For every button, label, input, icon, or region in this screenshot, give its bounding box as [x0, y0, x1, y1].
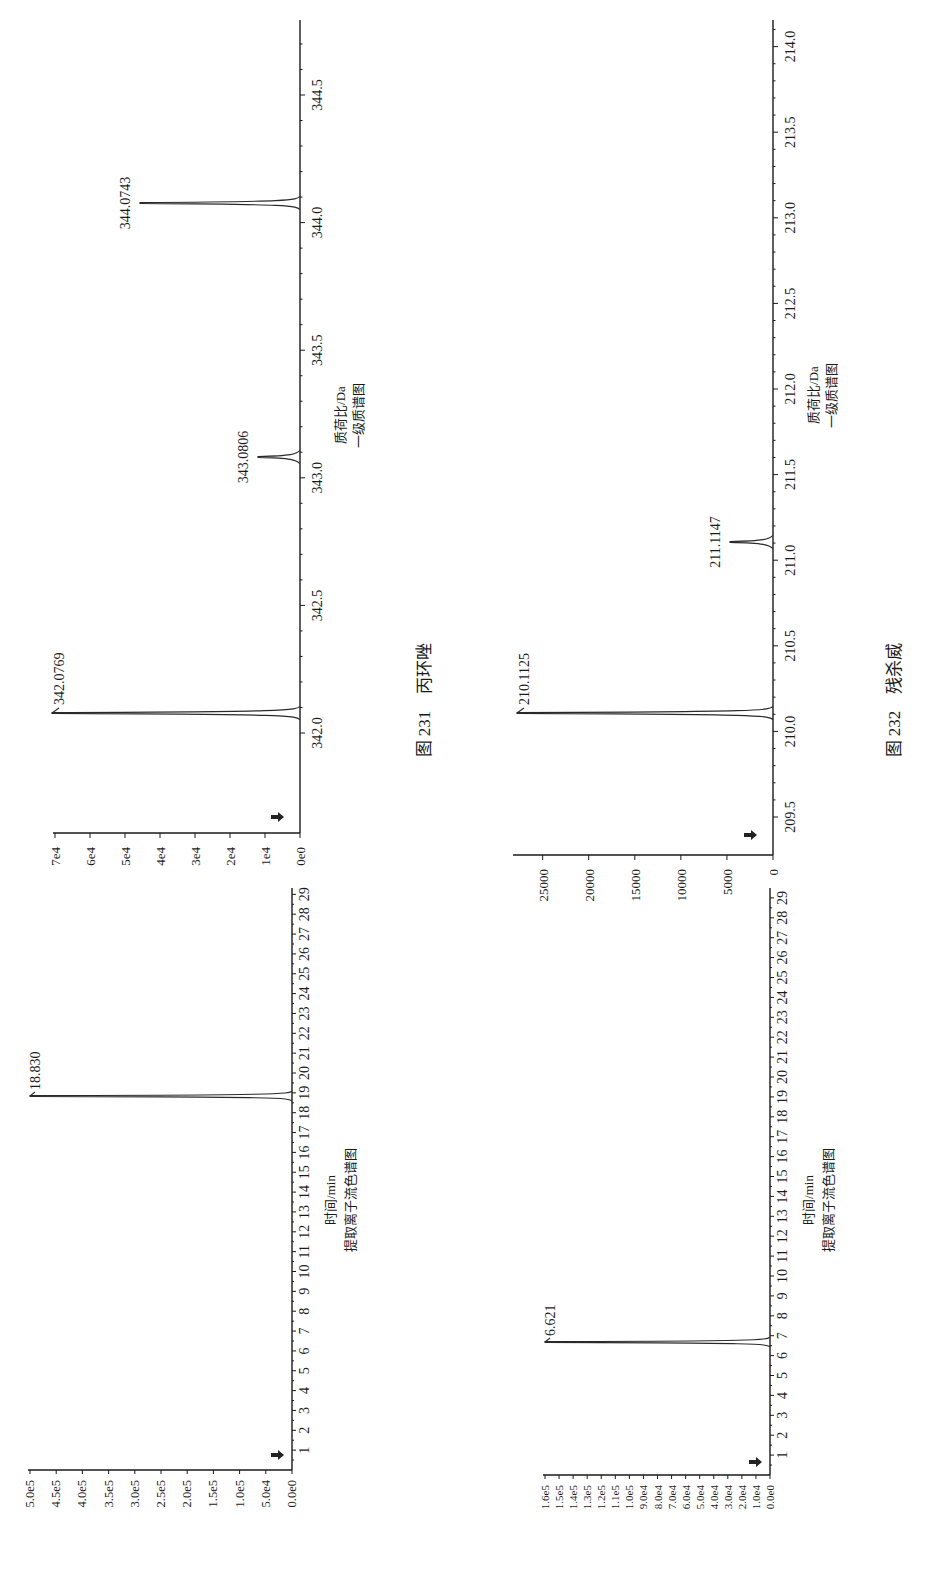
mz-tick-label: 210.5 [783, 630, 798, 662]
time-tick-label: 1 [297, 1447, 312, 1454]
time-tick-label: 5 [297, 1367, 312, 1374]
time-tick-label: 21 [297, 1046, 312, 1060]
time-tick-label: 20 [297, 1066, 312, 1080]
xic-intensity-tick-label: 2.5e5 [154, 1480, 168, 1507]
xic-intensity-tick-label: 5.0e4 [694, 1485, 706, 1510]
time-tick-label: 24 [775, 990, 790, 1004]
intensity-tick-label: 0 [766, 869, 781, 876]
xic-intensity-tick-label: 2.0e5 [180, 1480, 194, 1507]
peak-label: 210.1125 [517, 653, 532, 705]
xic-intensity-tick-label: 4.0e4 [708, 1485, 720, 1510]
time-tick-label: 6 [775, 1352, 790, 1359]
xic-intensity-tick-label: 1.0e5 [623, 1485, 635, 1510]
time-tick-label: 10 [297, 1265, 312, 1279]
time-tick-label: 27 [775, 931, 790, 945]
intensity-tick-label: 7e4 [48, 847, 63, 866]
xic-chart: 1234567891011121314151617181920212223242… [23, 887, 358, 1507]
intensity-tick-label: 5000 [720, 869, 735, 895]
mz-tick-label: 342.0 [310, 717, 325, 749]
time-tick-label: 7 [297, 1328, 312, 1335]
peak-label: 342.0769 [52, 653, 67, 706]
time-tick-label: 26 [297, 947, 312, 961]
ms-title: 一级质谱图 [351, 383, 366, 448]
time-tick-label: 18 [297, 1106, 312, 1120]
threshold-arrow-icon [749, 1457, 762, 1467]
time-tick-label: 1 [775, 1452, 790, 1459]
time-tick-label: 4 [297, 1387, 312, 1394]
xic-intensity-tick-label: 1.0e5 [233, 1480, 247, 1507]
figure-232: 209.5210.0210.5211.0211.5212.0212.5213.0… [513, 20, 904, 1509]
xic-xlabel: 时间/min [801, 1175, 816, 1225]
time-tick-label: 12 [297, 1225, 312, 1239]
time-tick-label: 9 [775, 1292, 790, 1299]
time-tick-label: 13 [297, 1205, 312, 1219]
xic-intensity-tick-label: 1.0e4 [750, 1485, 762, 1510]
mz-tick-label: 343.0 [310, 462, 325, 494]
xic-intensity-tick-label: 5.0e5 [23, 1480, 37, 1507]
intensity-tick-label: 15000 [628, 869, 643, 902]
ms-chart: 209.5210.0210.5211.0211.5212.0212.5213.0… [513, 20, 839, 902]
time-tick-label: 8 [297, 1308, 312, 1315]
xic-intensity-tick-label: 6.0e4 [680, 1485, 692, 1510]
peak-trace [30, 1091, 292, 1101]
time-tick-label: 27 [297, 927, 312, 941]
xic-peak-label: 18.830 [28, 1052, 43, 1091]
xic-intensity-tick-label: 1.3e5 [581, 1485, 593, 1510]
time-tick-label: 10 [775, 1269, 790, 1283]
time-tick-label: 22 [297, 1026, 312, 1040]
intensity-tick-label: 1e4 [258, 847, 273, 866]
xic-title: 提取离子流色谱图 [343, 1148, 358, 1252]
figure-caption: 图 231 丙环唑 [415, 643, 434, 758]
time-tick-label: 3 [297, 1407, 312, 1414]
mz-tick-label: 343.5 [310, 334, 325, 366]
peak-trace [258, 450, 300, 463]
xic-intensity-tick-label: 7.0e4 [666, 1485, 678, 1510]
xic-intensity-tick-label: 2.0e4 [736, 1485, 748, 1510]
xic-intensity-tick-label: 1.6e5 [539, 1485, 551, 1510]
time-tick-label: 8 [775, 1312, 790, 1319]
mz-tick-label: 344.0 [310, 207, 325, 239]
time-tick-label: 4 [775, 1392, 790, 1399]
mz-tick-label: 342.5 [310, 590, 325, 622]
xic-intensity-tick-label: 5.0e4 [259, 1479, 273, 1507]
time-tick-label: 17 [775, 1130, 790, 1144]
xic-intensity-tick-label: 4.5e5 [49, 1480, 63, 1507]
peak-trace [517, 706, 773, 719]
time-tick-label: 9 [297, 1288, 312, 1295]
time-tick-label: 7 [775, 1332, 790, 1339]
time-tick-label: 26 [775, 951, 790, 965]
mz-tick-label: 210.0 [783, 716, 798, 748]
mz-tick-label: 344.5 [310, 79, 325, 111]
ms-xlabel: 质荷比/Da [806, 366, 821, 424]
xic-intensity-tick-label: 1.2e5 [595, 1485, 607, 1510]
intensity-tick-label: 20000 [582, 869, 597, 902]
time-tick-label: 12 [775, 1229, 790, 1243]
threshold-arrow-icon [271, 1450, 284, 1460]
time-tick-label: 29 [775, 891, 790, 905]
time-tick-label: 16 [775, 1150, 790, 1164]
mz-tick-label: 212.5 [783, 288, 798, 320]
time-tick-label: 14 [297, 1185, 312, 1199]
xic-xlabel: 时间/min [323, 1175, 338, 1225]
mz-tick-label: 212.0 [783, 373, 798, 405]
time-tick-label: 2 [297, 1427, 312, 1434]
xic-intensity-tick-label: 3.5e5 [102, 1480, 116, 1507]
xic-intensity-tick-label: 1.5e5 [206, 1480, 220, 1507]
xic-intensity-tick-label: 3.0e4 [722, 1485, 734, 1510]
xic-intensity-tick-label: 4.0e5 [75, 1480, 89, 1507]
threshold-arrow-icon [744, 830, 757, 840]
xic-intensity-tick-label: 0.0e0 [764, 1485, 776, 1510]
time-tick-label: 6 [297, 1347, 312, 1354]
time-tick-label: 20 [775, 1070, 790, 1084]
ms-title: 一级质谱图 [824, 363, 839, 428]
intensity-tick-label: 4e4 [153, 847, 168, 866]
time-tick-label: 14 [775, 1189, 790, 1203]
ms-chart: 342.0342.5343.0343.5344.0344.50e01e42e43… [48, 20, 366, 866]
intensity-tick-label: 3e4 [188, 847, 203, 866]
time-tick-label: 3 [775, 1412, 790, 1419]
figure-page: 342.0342.5343.0343.5344.0344.50e01e42e43… [0, 0, 928, 1575]
intensity-tick-label: 2e4 [223, 847, 238, 866]
peak-trace [545, 1337, 770, 1347]
time-tick-label: 13 [775, 1209, 790, 1223]
intensity-tick-label: 6e4 [83, 847, 98, 866]
